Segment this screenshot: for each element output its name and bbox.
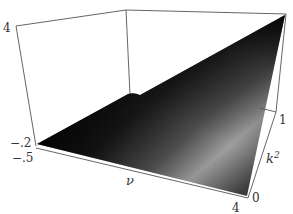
box-edge-left-vertical — [16, 26, 36, 146]
surface-shade-right — [37, 15, 285, 196]
surface — [37, 15, 285, 196]
z-tick-top: 4 — [3, 21, 11, 35]
x-axis-label: ν — [126, 173, 134, 188]
y-axis-label: k2 — [266, 150, 280, 166]
box-edge-back-vertical — [126, 10, 130, 95]
z-tick-bottom: −.2 — [10, 136, 32, 150]
y-tick-back: 1 — [279, 113, 287, 127]
surface-plot: 4 −.2 −.5 4 0 1 ν k2 — [0, 0, 293, 214]
x-tick-right: 4 — [232, 201, 240, 214]
box-edge-top-right — [126, 10, 286, 14]
y-tick-front: 0 — [252, 191, 260, 205]
x-tick-left: −.5 — [12, 151, 34, 165]
box-edge-back-top — [16, 10, 126, 26]
y-axis-label-sup: 2 — [273, 150, 280, 160]
y-axis-label-base: k — [266, 151, 274, 166]
